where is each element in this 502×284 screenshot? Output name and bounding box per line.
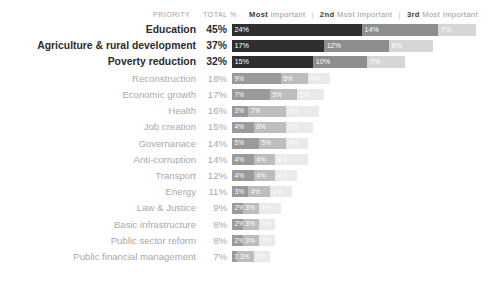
legend-item-1: Mostimportant bbox=[249, 10, 306, 19]
chart-row: Basic infrastructure8%2%3%3% bbox=[0, 216, 502, 232]
chart-row: Job creation15%4%6%5% bbox=[0, 119, 502, 135]
bar-segment-series-2: 4% bbox=[254, 170, 276, 181]
bar-segment-label: 15% bbox=[235, 59, 249, 66]
bar-segment-label: 7% bbox=[370, 59, 380, 66]
bar-segment-series-3: 4% bbox=[270, 186, 292, 197]
legend-item-2: 2ndMost Important bbox=[320, 10, 393, 19]
bar-segment-label: 3% bbox=[235, 189, 245, 196]
row-category-label: Basic infrastructure bbox=[0, 220, 196, 230]
bar-segment-label: 3% bbox=[245, 237, 255, 244]
bar-segment-series-2: 4% bbox=[248, 186, 270, 197]
bar-segment-series-1: 3% bbox=[232, 106, 248, 117]
row-category-label: Health bbox=[0, 106, 196, 116]
bar-segment-label: 9% bbox=[235, 75, 245, 82]
bar-segment-series-2: 3% bbox=[237, 251, 253, 262]
legend-separator-2: | bbox=[399, 10, 401, 19]
row-total-value: 12% bbox=[196, 171, 232, 181]
row-category-label: Agriculture & rural development bbox=[0, 41, 196, 51]
legend-priority-label: PRIORITY bbox=[153, 10, 190, 19]
legend-item-3: 3rdMost Important bbox=[407, 10, 478, 19]
stacked-bar-chart: PRIORITY TOTAL % Mostimportant | 2ndMost… bbox=[0, 0, 502, 284]
row-category-label: Public sector reform bbox=[0, 236, 196, 246]
bar-segment-label: 4% bbox=[251, 189, 261, 196]
stacked-bar: 2%3%4% bbox=[232, 203, 281, 214]
bar-segment-label: 3% bbox=[240, 253, 250, 260]
bar-segment-label: 4% bbox=[278, 172, 288, 179]
row-total-value: 8% bbox=[196, 220, 232, 230]
stacked-bar: 3%4%4% bbox=[232, 186, 292, 197]
bar-segment-series-2: 4% bbox=[254, 154, 276, 165]
chart-row: Economic growth17%7%5%5% bbox=[0, 87, 502, 103]
chart-row: Poverty reduction32%15%10%7% bbox=[0, 54, 502, 70]
chart-row: Anti-corruption14%4%4%6% bbox=[0, 152, 502, 168]
stacked-bar: 5%5%4% bbox=[232, 138, 308, 149]
stacked-bar: 15%10%7% bbox=[232, 56, 405, 68]
bar-segment-label: 4% bbox=[262, 205, 272, 212]
bar-segment-label: 8% bbox=[392, 43, 402, 50]
bar-segment-series-1: 4% bbox=[232, 154, 254, 165]
stacked-bar: 17%12%8% bbox=[232, 40, 433, 52]
bar-segment-label: 3% bbox=[245, 221, 255, 228]
bar-segment-series-3: 7% bbox=[438, 24, 476, 36]
bar-segment-series-3: 4% bbox=[259, 203, 281, 214]
bar-segment-series-1: 2% bbox=[232, 203, 243, 214]
chart-row: Governanace14%5%5%4% bbox=[0, 135, 502, 151]
chart-legend: PRIORITY TOTAL % Mostimportant | 2ndMost… bbox=[0, 7, 502, 21]
chart-row: Law & Justice9%2%3%4% bbox=[0, 200, 502, 216]
stacked-bar: 1%3%3% bbox=[232, 251, 270, 262]
legend-item-1-rank: Most bbox=[249, 10, 268, 19]
bar-segment-series-3: 4% bbox=[286, 138, 308, 149]
legend-item-2-rank: 2nd bbox=[320, 10, 335, 19]
chart-row: Public financial management7%1%3%3% bbox=[0, 249, 502, 265]
row-category-label: Education bbox=[0, 25, 196, 35]
bar-segment-series-2: 6% bbox=[254, 122, 287, 133]
bar-segment-label: 3% bbox=[245, 205, 255, 212]
bar-segment-series-3: 5% bbox=[297, 89, 324, 100]
row-category-label: Energy bbox=[0, 187, 196, 197]
bar-segment-label: 14% bbox=[365, 26, 379, 33]
row-total-value: 15% bbox=[196, 122, 232, 132]
chart-row: Public sector reform8%2%3%3% bbox=[0, 232, 502, 248]
stacked-bar: 24%14%7% bbox=[232, 24, 476, 36]
stacked-bar: 4%4%6% bbox=[232, 154, 308, 165]
bar-segment-label: 12% bbox=[327, 43, 341, 50]
stacked-bar: 7%5%5% bbox=[232, 89, 324, 100]
chart-rows: Education45%24%14%7%Agriculture & rural … bbox=[0, 22, 502, 265]
bar-segment-series-1: 2% bbox=[232, 235, 243, 246]
row-total-value: 17% bbox=[196, 90, 232, 100]
stacked-bar: 4%6%5% bbox=[232, 122, 313, 133]
row-category-label: Public financial management bbox=[0, 252, 196, 262]
chart-row: Education45%24%14%7% bbox=[0, 22, 502, 38]
legend-item-3-text: Most Important bbox=[422, 10, 478, 19]
row-total-value: 7% bbox=[196, 252, 232, 262]
bar-segment-label: 3% bbox=[262, 237, 272, 244]
legend-item-2-text: Most Important bbox=[337, 10, 393, 19]
bar-segment-label: 5% bbox=[289, 124, 299, 131]
bar-segment-series-2: 3% bbox=[243, 219, 259, 230]
bar-segment-series-1: 7% bbox=[232, 89, 270, 100]
row-category-label: Poverty reduction bbox=[0, 57, 196, 67]
legend-items: Mostimportant | 2ndMost Important | 3rdM… bbox=[249, 7, 478, 21]
bar-segment-label: 5% bbox=[272, 92, 282, 99]
row-total-value: 45% bbox=[196, 25, 232, 35]
row-category-label: Anti-corruption bbox=[0, 155, 196, 165]
bar-segment-label: 4% bbox=[289, 140, 299, 147]
bar-segment-label: 4% bbox=[256, 156, 266, 163]
bar-segment-series-3: 5% bbox=[286, 122, 313, 133]
bar-segment-series-1: 2% bbox=[232, 219, 243, 230]
bar-segment-series-1: 15% bbox=[232, 56, 313, 68]
bar-segment-label: 4% bbox=[235, 156, 245, 163]
bar-segment-series-2: 5% bbox=[270, 89, 297, 100]
bar-segment-label: 6% bbox=[256, 124, 266, 131]
chart-row: Transport12%4%4%4% bbox=[0, 168, 502, 184]
row-category-label: Economic growth bbox=[0, 90, 196, 100]
bar-segment-label: 3% bbox=[256, 253, 266, 260]
row-category-label: Governanace bbox=[0, 139, 196, 149]
bar-segment-label: 7% bbox=[440, 26, 450, 33]
row-category-label: Transport bbox=[0, 171, 196, 181]
row-total-value: 18% bbox=[196, 74, 232, 84]
bar-segment-series-3: 6% bbox=[286, 106, 319, 117]
row-category-label: Job creation bbox=[0, 122, 196, 132]
legend-total-label: TOTAL % bbox=[203, 10, 236, 19]
bar-segment-series-3: 8% bbox=[389, 40, 432, 52]
